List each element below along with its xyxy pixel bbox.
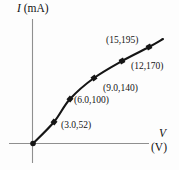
point-label: (12,170) bbox=[131, 62, 163, 72]
point-label: (6.0,100) bbox=[74, 96, 109, 106]
y-axis-label: I (mA) bbox=[17, 3, 49, 15]
y-axis-variable: I bbox=[17, 2, 21, 14]
x-axis-variable: V bbox=[159, 128, 166, 140]
y-axis-unit: (mA) bbox=[24, 2, 49, 14]
point-label: (3.0,52) bbox=[61, 121, 91, 131]
iv-curve bbox=[33, 39, 163, 144]
iv-characteristic-figure: I (mA) V (V) (3.0,52)(6.0,100)(9.0,140)(… bbox=[0, 0, 179, 170]
origin-point-marker bbox=[30, 141, 36, 147]
x-axis-unit: (V) bbox=[151, 142, 167, 154]
point-label: (9.0,140) bbox=[103, 84, 138, 94]
point-label: (15,195) bbox=[106, 36, 138, 46]
